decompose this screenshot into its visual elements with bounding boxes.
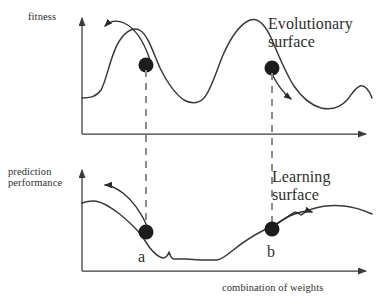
bottom-y-axis-label-line1: prediction [8,166,52,177]
bottom-rightward-arrow-icon [276,211,312,225]
top-y-axis-label: fitness [28,11,56,22]
learning-surface-curve [82,201,372,260]
evolutionary-surface-title-line2: surface [268,33,315,50]
bottom-marker-dot-a [139,225,154,240]
surfaces-diagram: fitness Evolutionarysurface predictionpe… [0,0,385,305]
connectors-group [146,70,272,235]
evolutionary-surface-title: Evolutionarysurface [268,15,353,51]
bottom-dot-a-group [139,225,154,240]
learning-surface-title-line2: surface [272,186,319,203]
bottom-y-axis-label-line2: performance [8,177,62,188]
evolutionary-surface-title-line1: Evolutionary [268,15,353,32]
point-label-a: a [138,248,145,265]
bottom-y-axis-label: predictionperformance [8,166,62,189]
bottom-uphill-arrow-icon [105,185,148,228]
top-downhill-arrow-icon [272,74,291,99]
bottom-x-axis-label: combination of weights [222,282,323,293]
top-uphill-arrow-icon [105,21,150,60]
point-label-b: b [267,243,275,260]
learning-surface-title: Learningsurface [272,168,331,204]
learning-surface-title-line1: Learning [272,168,331,185]
